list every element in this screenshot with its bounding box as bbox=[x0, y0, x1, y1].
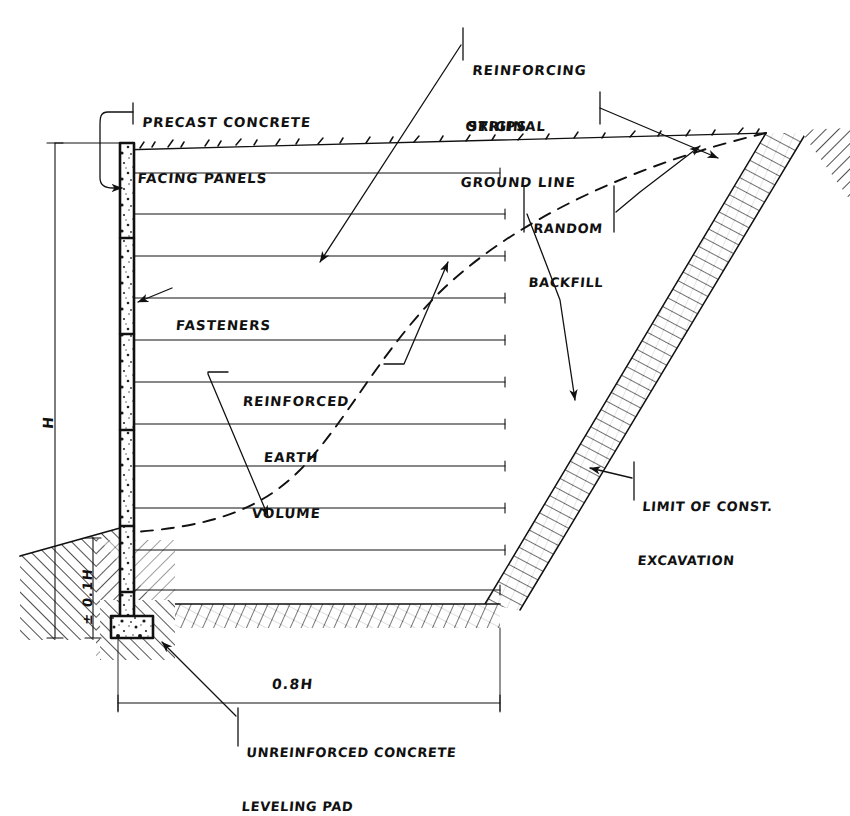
label-line: UNREINFORCED CONCRETE bbox=[246, 744, 458, 762]
leader-reinforcing-strips bbox=[320, 28, 463, 262]
label-line: FACING PANELS bbox=[137, 169, 307, 188]
precast-facing-panel-wall bbox=[120, 143, 134, 622]
dimension-label-base-width: 0.8H bbox=[271, 676, 314, 692]
label-line: BACKFILL bbox=[528, 274, 604, 292]
label-line: PRECAST CONCRETE bbox=[142, 113, 312, 132]
label-unreinforced-concrete-leveling-pad: UNREINFORCED CONCRETE LEVELING PAD bbox=[238, 708, 461, 816]
label-line: LEVELING PAD bbox=[241, 798, 453, 816]
dimension-label-wall-height: H bbox=[40, 415, 56, 430]
label-line: REINFORCED bbox=[242, 392, 350, 411]
label-line: LIMIT OF CONST. bbox=[642, 498, 774, 516]
label-limit-of-const-excavation: LIMIT OF CONST. EXCAVATION bbox=[634, 462, 777, 606]
label-line: RANDOM bbox=[533, 220, 609, 238]
unreinforced-concrete-leveling-pad bbox=[111, 616, 153, 638]
leader-original-ground-line bbox=[600, 92, 718, 158]
excavation-bottom-hatch bbox=[126, 604, 500, 628]
label-line: FASTENERS bbox=[175, 316, 272, 335]
label-line: EARTH bbox=[237, 448, 345, 467]
label-reinforced-earth-volume: REINFORCED EARTH VOLUME bbox=[229, 355, 353, 560]
dimension-label-embedment: ± 0.1H bbox=[80, 567, 95, 625]
label-random-backfill: RANDOM BACKFILL bbox=[525, 184, 612, 328]
leader-fasteners bbox=[138, 288, 172, 302]
reinforcing-strip bbox=[127, 585, 500, 595]
label-line: VOLUME bbox=[232, 504, 340, 523]
label-line: REINFORCING bbox=[472, 61, 588, 80]
reinforcing-strip bbox=[127, 251, 505, 261]
label-precast-concrete-facing-panels: PRECAST CONCRETE FACING PANELS bbox=[133, 76, 315, 225]
label-line: ORIGINAL bbox=[465, 117, 582, 136]
label-line: EXCAVATION bbox=[637, 552, 769, 570]
dimension-base-width bbox=[118, 628, 500, 712]
